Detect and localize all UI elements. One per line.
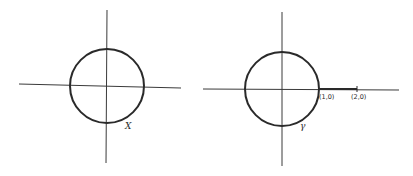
right-curve-label: γ bbox=[300, 121, 306, 131]
right-figure: (1,0) (2,0) γ bbox=[203, 12, 399, 166]
diagram-canvas: X (1,0) (2,0) γ bbox=[0, 0, 413, 176]
left-figure: X bbox=[19, 10, 181, 163]
left-y-axis bbox=[106, 10, 107, 163]
right-x-axis bbox=[203, 89, 399, 90]
left-curve-label: X bbox=[124, 121, 132, 131]
point-label-2-0: (2,0) bbox=[351, 93, 366, 101]
left-x-axis bbox=[19, 84, 181, 88]
point-label-1-0: (1,0) bbox=[319, 93, 334, 101]
